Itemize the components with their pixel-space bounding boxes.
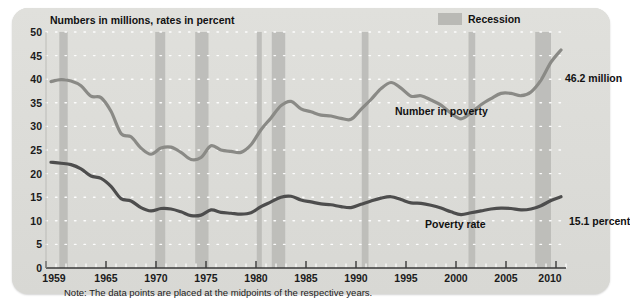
series-lines	[51, 50, 561, 216]
annotation-end-rate: 15.1 percent	[569, 215, 630, 227]
annotation-end-number: 46.2 million	[565, 72, 622, 84]
y-axis-tick-label: 30	[20, 121, 42, 131]
recession-band	[362, 32, 369, 268]
y-axis-tick-label: 10	[20, 216, 42, 226]
legend: Recession	[438, 13, 521, 25]
x-axis-tick-label: 1980	[244, 272, 267, 284]
x-axis-tick-label: 2005	[494, 272, 517, 284]
y-axis-tick-label: 0	[20, 263, 42, 273]
plot-svg	[46, 32, 566, 268]
y-axis-tick-label: 25	[20, 145, 42, 155]
gridlines	[46, 32, 566, 244]
x-axis-tick-label: 1990	[344, 272, 367, 284]
x-axis-tick-label: 1959	[42, 272, 65, 284]
axis-units-title: Numbers in millions, rates in percent	[50, 14, 234, 26]
x-axis-tick-label: 1965	[94, 272, 117, 284]
y-axis-tick-label: 20	[20, 169, 42, 179]
y-axis-tick-label: 15	[20, 192, 42, 202]
x-axis-minor-ticks	[46, 261, 566, 268]
annotation-number-in-poverty: Number in poverty	[395, 105, 488, 117]
annotation-poverty-rate: Poverty rate	[425, 218, 486, 230]
x-axis-tick-label: 1985	[294, 272, 317, 284]
recession-band	[257, 32, 262, 268]
y-axis-tick-label: 35	[20, 98, 42, 108]
x-axis-tick-label: 2000	[444, 272, 467, 284]
recession-swatch-icon	[438, 13, 462, 25]
x-axis-tick-label: 1970	[144, 272, 167, 284]
y-axis-tick-label: 45	[20, 51, 42, 61]
plot-area: Number in poverty Poverty rate 46.2 mill…	[46, 32, 566, 268]
series-line	[51, 162, 561, 216]
y-axis-tick-label: 50	[20, 27, 42, 37]
x-axis-tick-label: 1975	[194, 272, 217, 284]
legend-item-recession: Recession	[468, 13, 521, 25]
chart-note: Note: The data points are placed at the …	[64, 287, 372, 298]
y-axis-tick-labels: 05101520253035404550	[18, 32, 42, 268]
x-axis-tick-label: 1995	[394, 272, 417, 284]
y-axis-tick-label: 40	[20, 74, 42, 84]
y-axis-tick-label: 5	[20, 239, 42, 249]
x-axis-tick-labels: 1959196519701975198019851990199520002005…	[46, 272, 566, 286]
x-axis-tick-label: 2010	[538, 272, 561, 284]
